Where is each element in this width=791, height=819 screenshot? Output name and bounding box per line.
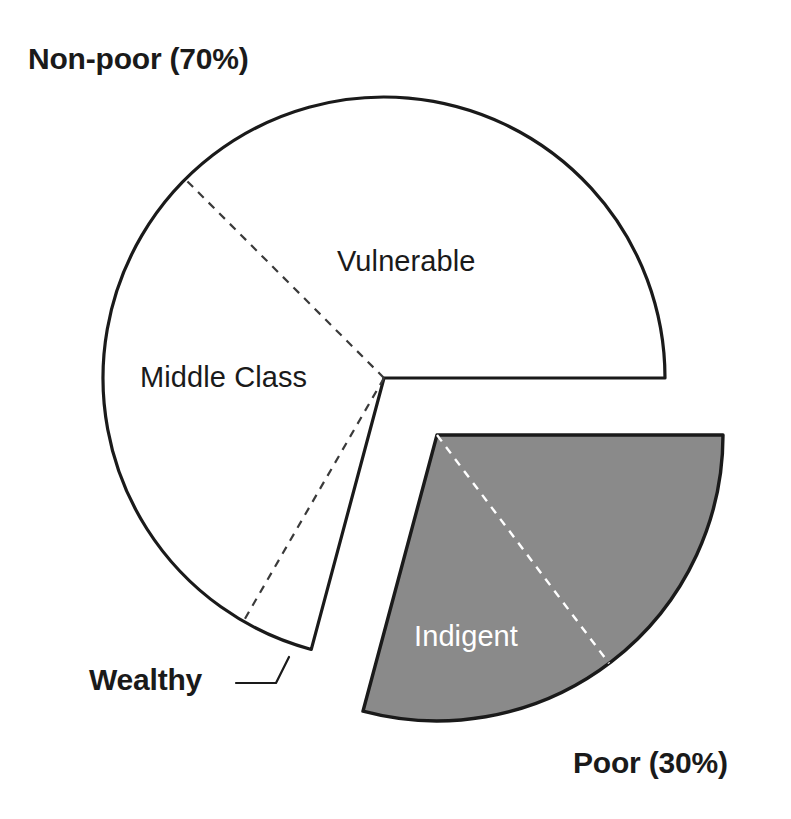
slice-label-indigent: Indigent	[414, 622, 518, 651]
slice-label-vulnerable: Vulnerable	[337, 247, 476, 276]
slice-label-middle-class: Middle Class	[140, 363, 307, 392]
pie-chart-figure: Non-poor (70%) Poor (30%) Wealthy Vulner…	[0, 0, 791, 819]
poor-wedge	[363, 435, 723, 721]
group-label-nonpoor: Non-poor (70%)	[28, 44, 249, 74]
group-label-poor: Poor (30%)	[573, 748, 728, 778]
slice-label-wealthy: Wealthy	[89, 665, 202, 695]
pie-chart-canvas	[0, 0, 791, 819]
wealthy-leader-line	[236, 657, 289, 683]
